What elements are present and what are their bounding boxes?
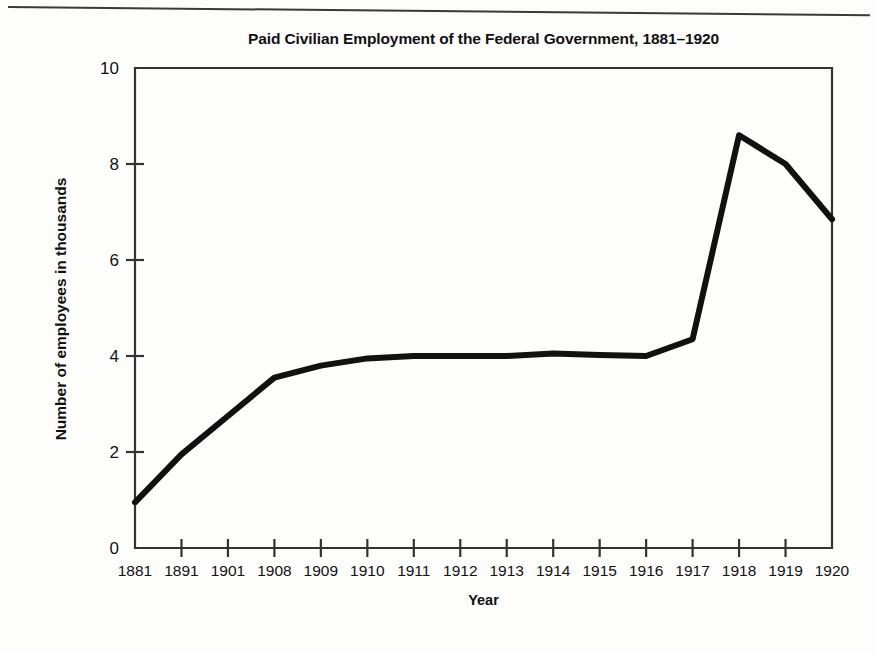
y-tick-label: 10 bbox=[100, 59, 119, 78]
x-tick-label: 1910 bbox=[350, 562, 385, 579]
x-tick-label: 1914 bbox=[536, 562, 571, 579]
y-tick-label: 8 bbox=[110, 155, 119, 174]
x-tick-label: 1912 bbox=[443, 562, 477, 579]
x-tick-label: 1909 bbox=[304, 562, 338, 579]
y-tick-label: 4 bbox=[110, 347, 119, 366]
y-tick-group: 0246810 bbox=[100, 59, 144, 558]
x-tick-label: 1919 bbox=[768, 562, 802, 579]
y-tick-label: 6 bbox=[110, 251, 119, 270]
x-tick-label: 1891 bbox=[164, 562, 198, 579]
data-line-paid-civilian-employment bbox=[135, 135, 832, 502]
x-tick-label: 1915 bbox=[582, 562, 616, 579]
x-tick-label: 1916 bbox=[629, 562, 663, 579]
chart-figure: Paid Civilian Employment of the Federal … bbox=[0, 0, 877, 654]
x-tick-label: 1920 bbox=[815, 562, 850, 579]
x-tick-label: 1908 bbox=[257, 562, 291, 579]
x-tick-label: 1918 bbox=[722, 562, 756, 579]
x-tick-label: 1913 bbox=[489, 562, 523, 579]
plot-area: 0246810 18811891190119081909191019111912… bbox=[0, 0, 877, 654]
x-tick-label: 1901 bbox=[211, 562, 245, 579]
y-tick-label: 2 bbox=[110, 443, 119, 462]
x-tick-label: 1911 bbox=[397, 562, 430, 579]
x-tick-label: 1917 bbox=[675, 562, 709, 579]
x-tick-label: 1881 bbox=[118, 562, 152, 579]
axis-frame bbox=[135, 68, 832, 548]
y-tick-label: 0 bbox=[110, 539, 119, 558]
data-series-group bbox=[135, 135, 832, 502]
x-tick-group: 1881189119011908190919101911191219131914… bbox=[118, 539, 850, 579]
